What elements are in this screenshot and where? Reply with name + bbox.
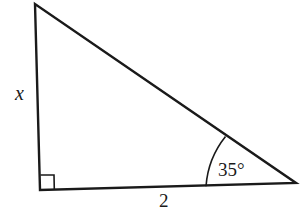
side-label-x: x bbox=[15, 83, 24, 103]
right-angle-marker bbox=[40, 175, 54, 190]
angle-label: 35° bbox=[218, 160, 245, 179]
triangle-figure bbox=[0, 0, 300, 212]
right-triangle bbox=[35, 4, 296, 190]
triangle-diagram: x 2 35° bbox=[0, 0, 300, 212]
side-label-base: 2 bbox=[159, 191, 169, 210]
